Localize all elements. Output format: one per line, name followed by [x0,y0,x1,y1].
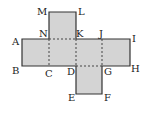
label-M: M [37,6,47,17]
label-E: E [68,92,75,103]
cube-net-diagram: M L A N K J I B C D G H E F [0,0,148,117]
label-A: A [11,36,20,47]
top-face [49,12,76,39]
label-G: G [104,66,112,77]
label-J: J [98,28,103,39]
label-C: C [45,68,53,79]
label-F: F [104,92,111,103]
bottom-face [76,66,102,94]
label-B: B [12,65,19,76]
label-D: D [67,66,75,77]
label-H: H [131,63,140,74]
label-L: L [78,6,85,17]
label-I: I [132,33,136,44]
label-N: N [39,28,48,39]
label-K: K [76,28,84,39]
